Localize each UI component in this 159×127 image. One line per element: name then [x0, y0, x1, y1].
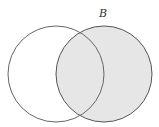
- set-b-label: B: [98, 7, 107, 20]
- venn-diagram: B: [0, 0, 159, 127]
